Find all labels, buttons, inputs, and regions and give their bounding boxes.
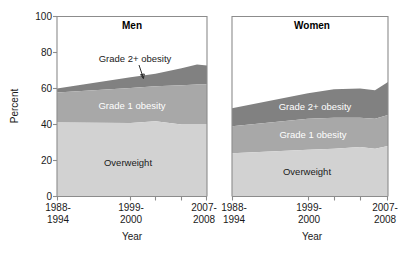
y-tick-label-100: 100 (35, 11, 52, 22)
women-x-tick-label-2-line2: 2000 (298, 214, 321, 225)
women-x-tick-label-1-line1: 1988- (221, 202, 247, 213)
women-x-tick-label-1-line2: 1994 (223, 214, 246, 225)
men-x-axis-title: Year (122, 231, 143, 242)
y-tick-label-0: 0 (46, 191, 52, 202)
y-tick-label-40: 40 (41, 119, 53, 130)
men-x-tick-label-2-line1: 1999- (118, 202, 144, 213)
panel-title-women: Women (294, 20, 330, 31)
panel-title-men: Men (122, 20, 142, 31)
women-x-tick-label-3-line1: 2007- (372, 202, 398, 213)
chart-svg: Percent 100 80 60 40 20 0 (0, 0, 412, 254)
panel-men: Men Overweight Grade 1 obesity Grade 2+ … (45, 17, 217, 243)
men-x-tick-label-3-line1: 2007- (191, 202, 217, 213)
men-areas (57, 65, 207, 197)
y-tick-label-80: 80 (41, 47, 53, 58)
women-x-tick-label-2-line1: 1999- (296, 202, 322, 213)
women-label-grade1: Grade 1 obesity (279, 129, 346, 140)
stacked-area-chart-figure: Percent 100 80 60 40 20 0 (0, 0, 412, 254)
men-x-tick-label-1-line2: 1994 (47, 214, 70, 225)
y-axis-title: Percent (9, 89, 20, 124)
women-x-tick-label-3-line2: 2008 (374, 214, 397, 225)
women-x-axis-title: Year (302, 231, 323, 242)
men-x-tick-label-3-line2: 2008 (193, 214, 216, 225)
men-label-grade2: Grade 2+ obesity (99, 53, 172, 64)
women-label-grade2: Grade 2+ obesity (279, 101, 352, 112)
panel-women: Women Overweight Grade 1 obesity Grade 2… (221, 17, 398, 243)
men-x-tick-label-1-line1: 1988- (45, 202, 71, 213)
men-label-overweight: Overweight (104, 157, 152, 168)
y-tick-label-20: 20 (41, 155, 53, 166)
y-axis-group: Percent 100 80 60 40 20 0 (9, 11, 57, 202)
men-label-grade1: Grade 1 obesity (98, 100, 165, 111)
men-x-tick-label-2-line2: 2000 (120, 214, 143, 225)
y-tick-label-60: 60 (41, 83, 53, 94)
women-label-overweight: Overweight (283, 166, 331, 177)
